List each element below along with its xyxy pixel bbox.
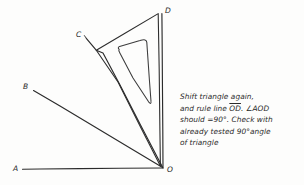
note-line-3: should =90°. Check with	[180, 114, 300, 126]
instruction-note: Shift triangle again, and rule line OD. …	[180, 91, 300, 149]
note-line-4: already tested 90°angle	[180, 126, 300, 138]
note-line-2: and rule line OD. ∠AOD	[180, 103, 300, 115]
geometry-figure: A B C D O Shift triangle again, and rule…	[0, 0, 304, 185]
ray-OD	[162, 14, 163, 169]
note-line-2-pre: and rule line	[180, 104, 229, 113]
segment-OD-overline: OD	[229, 104, 241, 113]
note-line-2-post: . ∠AOD	[241, 104, 269, 113]
point-label-A: A	[13, 165, 18, 173]
tick-at-C	[84, 36, 86, 39]
point-label-C: C	[76, 31, 81, 39]
point-label-O: O	[167, 166, 173, 174]
note-line-5: of triangle	[180, 137, 300, 149]
set-square-cutout	[118, 40, 151, 104]
point-label-D: D	[165, 7, 171, 15]
note-line-1: Shift triangle again,	[180, 91, 300, 103]
set-square-outline	[96, 14, 160, 166]
ray-OA	[23, 168, 164, 169]
point-label-B: B	[23, 83, 28, 91]
